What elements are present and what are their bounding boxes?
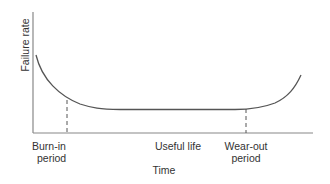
y-axis-label: Failure rate [19,18,31,71]
wear-out-label-line1: Wear-out [225,140,268,152]
useful-life-label: Useful life [155,140,201,152]
x-axis-label: Time [153,164,176,176]
burn-in-label-line1: Burn-in [32,140,66,152]
burn-in-label-line2: period [37,152,66,164]
wear-out-label-line2: period [231,152,260,164]
failure-rate-curve [36,55,301,110]
bathtub-curve-chart: Failure rate Burn-in period Useful life … [0,0,330,184]
